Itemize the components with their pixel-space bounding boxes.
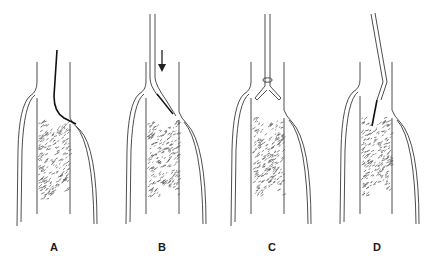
panel-b: B xyxy=(110,0,220,264)
panel-a: A xyxy=(0,0,110,264)
rotation-ring-icon xyxy=(263,78,272,82)
panel-label-b: B xyxy=(152,241,172,253)
clot xyxy=(147,120,181,197)
panel-d: D xyxy=(327,0,437,264)
panel-label-c: C xyxy=(262,241,282,253)
guidewire xyxy=(157,94,173,114)
vessel-walls xyxy=(17,62,97,226)
figure: A B xyxy=(0,0,437,264)
vessel-diagram-b xyxy=(110,0,220,264)
vessel-walls xyxy=(340,13,419,224)
clot xyxy=(361,117,393,196)
down-arrow-icon xyxy=(158,50,166,72)
vessel-diagram-c xyxy=(217,0,327,264)
panel-label-d: D xyxy=(367,241,387,253)
guidewire xyxy=(372,100,377,126)
clot xyxy=(38,120,72,200)
vessel-diagram-a xyxy=(0,0,110,264)
vessel-walls xyxy=(231,14,311,226)
vessel-walls xyxy=(126,14,206,224)
vessel-diagram-d xyxy=(327,0,437,264)
clot xyxy=(252,117,286,197)
guidewire xyxy=(54,50,76,124)
panel-label-a: A xyxy=(44,241,64,253)
panel-c: C xyxy=(217,0,327,264)
